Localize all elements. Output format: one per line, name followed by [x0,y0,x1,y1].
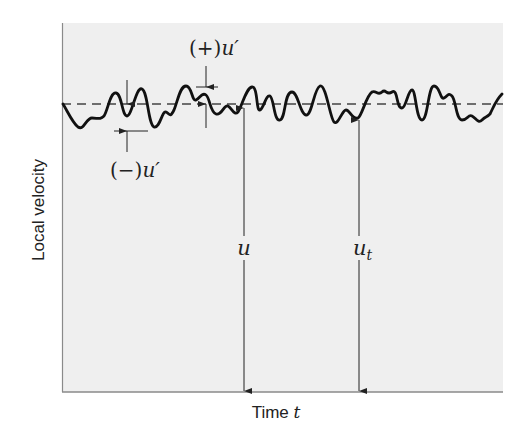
negative-fluctuation-label: (−)u′ [110,158,160,182]
positive-fluctuation-label: (+)u′ [189,36,239,60]
diagram-canvas: (+)u′ (−)u′ u ut Local velocity Time t [0,0,530,441]
x-axis-label: Time t [252,402,301,422]
plot-panel [62,23,503,392]
turbulence-velocity-figure: (+)u′ (−)u′ u ut Local velocity Time t [0,0,530,441]
y-axis-label: Local velocity [29,158,48,261]
mean-velocity-label: u [237,236,251,260]
